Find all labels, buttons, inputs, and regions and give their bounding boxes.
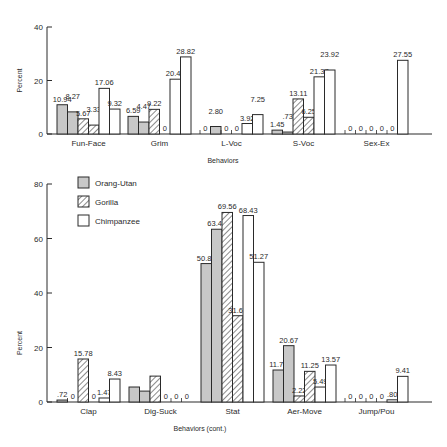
data-label: 23.92 (320, 50, 339, 59)
category-label: Fun-Face (71, 139, 106, 148)
bar (181, 57, 192, 134)
data-label: 13.57 (321, 355, 340, 364)
data-label: .73 (283, 112, 293, 121)
data-label: 0 (348, 124, 352, 133)
data-label: 2.80 (208, 107, 223, 116)
data-label: 9.32 (107, 99, 122, 108)
data-label: 0 (390, 124, 394, 133)
bar (128, 116, 139, 134)
y-tick-label: 20 (34, 344, 43, 353)
y-tick-label: 80 (34, 180, 43, 189)
data-label: 0 (224, 124, 228, 133)
y-tick-label: 0 (39, 398, 44, 407)
data-label: 68.43 (239, 206, 258, 215)
y-axis-title: Percent (16, 68, 23, 92)
category-label: S-Voc (293, 139, 314, 148)
bar (272, 130, 283, 134)
category-label: L-Voc (221, 139, 241, 148)
category-label: Grim (151, 139, 169, 148)
data-label: 28.82 (176, 47, 195, 56)
y-tick-label: 60 (34, 235, 43, 244)
bar (283, 132, 294, 134)
data-label: 27.55 (393, 50, 412, 59)
bar (129, 387, 140, 402)
data-label: 0 (380, 392, 384, 401)
legend-swatch (78, 196, 89, 207)
bar (57, 400, 68, 402)
y-tick-label: 0 (39, 130, 44, 139)
data-label: .80 (387, 390, 397, 399)
bar (387, 400, 398, 402)
data-label: 0 (235, 124, 239, 133)
bar (243, 216, 254, 402)
data-label: 0 (203, 124, 207, 133)
data-label: 15.78 (74, 349, 93, 358)
data-label: 0 (380, 124, 384, 133)
y-tick-label: 40 (34, 289, 43, 298)
bar (326, 365, 337, 402)
bar (99, 88, 110, 134)
bar (139, 122, 150, 134)
data-label: 0 (369, 124, 373, 133)
category-label: Aer-Move (287, 407, 322, 416)
category-label: Sex-Ex (364, 139, 390, 148)
bar (57, 105, 68, 134)
data-label: 0 (164, 392, 168, 401)
bar (242, 124, 253, 134)
data-label: 0 (359, 124, 363, 133)
bar (78, 359, 89, 402)
data-label: 13.11 (289, 89, 307, 98)
y-tick-label: 40 (34, 23, 43, 32)
data-label: 1.45 (270, 120, 285, 129)
data-label: .72 (57, 390, 67, 399)
data-label: 20.67 (279, 336, 298, 345)
bar (78, 119, 89, 134)
category-label: Clap (80, 407, 97, 416)
bar (305, 371, 316, 402)
legend-swatch (78, 177, 89, 188)
chart-top: 02040PercentBehaviorsFun-Face10.948.275.… (16, 23, 432, 164)
data-label: 11.25 (301, 361, 319, 370)
bar (253, 115, 264, 134)
legend: Orang-UtanGorillaChimpanzee (78, 177, 140, 226)
data-label: 7.25 (250, 95, 265, 104)
bar (325, 70, 336, 134)
bar (211, 127, 222, 134)
bar (293, 99, 304, 134)
legend-label: Gorilla (95, 198, 119, 207)
data-label: 8.43 (107, 369, 122, 378)
category-label: Stat (225, 407, 240, 416)
data-label: 9.22 (147, 99, 162, 108)
bar (170, 79, 181, 134)
bar (212, 229, 223, 402)
bar (315, 387, 326, 402)
bar (398, 376, 409, 402)
bar (99, 398, 110, 402)
data-label: 17.06 (95, 78, 114, 87)
y-axis-title: Percent (16, 331, 23, 355)
figure: 02040PercentBehaviorsFun-Face10.948.275.… (0, 0, 447, 447)
category-label: Dig-Suck (144, 407, 177, 416)
bar (89, 125, 100, 134)
bar (273, 370, 284, 402)
bar (304, 117, 315, 134)
bar (398, 60, 409, 134)
data-label: 0 (163, 124, 167, 133)
data-label: 0 (185, 392, 189, 401)
data-label: 69.56 (218, 202, 237, 211)
data-label: 0 (348, 392, 352, 401)
data-label: 0 (71, 392, 75, 401)
legend-swatch (78, 215, 89, 226)
data-label: 51.27 (249, 252, 268, 261)
bar (110, 379, 121, 402)
y-tick-label: 20 (34, 77, 43, 86)
x-axis-title: Behaviors (207, 157, 239, 164)
data-label: 0 (369, 392, 373, 401)
bar (201, 264, 212, 402)
bar (150, 376, 161, 402)
category-label: Jump/Pou (358, 407, 394, 416)
data-label: 8.27 (65, 92, 80, 101)
x-axis-title: Behaviors (cont.) (174, 425, 227, 433)
bar (314, 77, 325, 134)
data-label: 0 (92, 392, 96, 401)
